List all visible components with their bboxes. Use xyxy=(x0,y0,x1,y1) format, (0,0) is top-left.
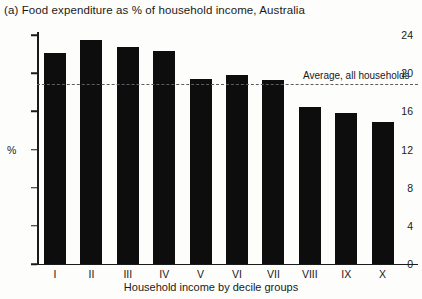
x-axis-title: Household income by decile groups xyxy=(0,281,422,293)
average-line xyxy=(37,84,418,85)
y-tick-mark xyxy=(31,72,37,74)
y-tick-mark xyxy=(31,34,37,36)
y-tick-mark xyxy=(31,111,37,113)
y-tick-label: 0 xyxy=(407,258,413,270)
bar-VII xyxy=(262,80,284,264)
bar-I xyxy=(44,53,66,264)
y-tick-mark xyxy=(31,225,37,227)
x-tick-label-V: V xyxy=(197,268,204,280)
y-axis-title: % xyxy=(7,144,16,156)
x-tick-label-I: I xyxy=(54,268,57,280)
y-tick-mark xyxy=(31,187,37,189)
y-tick-mark xyxy=(31,263,37,265)
x-tick-label-VIII: VIII xyxy=(302,268,318,280)
chart-figure: (a) Food expenditure as % of household i… xyxy=(0,0,422,299)
x-tick-label-VI: VI xyxy=(232,268,242,280)
bar-III xyxy=(117,47,139,264)
bar-VI xyxy=(226,75,248,264)
bar-IX xyxy=(335,113,357,264)
bar-X xyxy=(372,122,394,264)
y-tick-label: 24 xyxy=(401,29,413,41)
y-tick-label: 12 xyxy=(401,144,413,156)
bar-VIII xyxy=(299,107,321,264)
x-tick-label-III: III xyxy=(123,268,132,280)
y-tick-label: 16 xyxy=(401,105,413,117)
bar-V xyxy=(190,79,212,264)
x-tick-label-II: II xyxy=(88,268,94,280)
y-tick-mark xyxy=(31,149,37,151)
chart-title: (a) Food expenditure as % of household i… xyxy=(4,4,305,16)
x-tick-label-VII: VII xyxy=(267,268,280,280)
x-tick-label-X: X xyxy=(379,268,386,280)
y-tick-label: 4 xyxy=(407,220,413,232)
average-line-label: Average, all households xyxy=(303,70,410,81)
bar-II xyxy=(80,40,102,264)
x-tick-label-IV: IV xyxy=(159,268,169,280)
y-tick-label: 8 xyxy=(407,182,413,194)
x-tick-label-IX: IX xyxy=(341,268,351,280)
y-axis-line xyxy=(37,32,39,265)
